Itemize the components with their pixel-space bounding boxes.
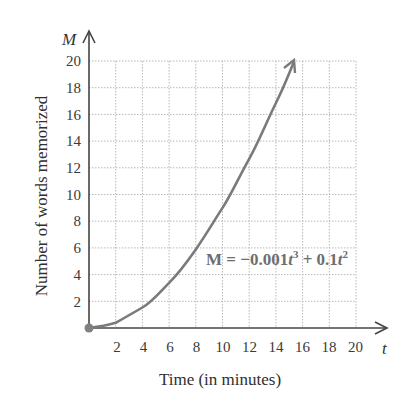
chart: 2 4 6 8 10 12 14 16 18 20 2 4 6 8 10 12 … xyxy=(0,0,416,401)
y-axis-variable: M xyxy=(61,30,77,49)
y-tick-label: 16 xyxy=(66,107,82,123)
y-tick-label: 20 xyxy=(66,53,81,69)
x-tick-label: 16 xyxy=(295,339,311,355)
x-axis-title: Time (in minutes) xyxy=(159,370,281,389)
y-tick-label: 18 xyxy=(66,80,81,96)
x-axis-variable: t xyxy=(382,339,388,358)
y-tick-labels: 2 4 6 8 10 12 14 16 18 20 xyxy=(66,53,82,309)
x-tick-label: 20 xyxy=(348,339,363,355)
x-tick-labels: 2 4 6 8 10 12 14 16 18 20 xyxy=(113,339,363,355)
x-tick-label: 10 xyxy=(216,339,231,355)
equation-annotation: M = −0.001t3 + 0.1t2 xyxy=(206,248,349,269)
y-tick-label: 6 xyxy=(74,240,82,256)
curve-line xyxy=(89,63,293,328)
x-tick-label: 8 xyxy=(193,339,201,355)
y-tick-label: 10 xyxy=(66,187,81,203)
x-tick-label: 12 xyxy=(242,339,257,355)
y-tick-label: 2 xyxy=(74,294,82,310)
y-tick-label: 8 xyxy=(74,213,82,229)
x-tick-label: 6 xyxy=(166,339,174,355)
x-tick-label: 4 xyxy=(140,339,148,355)
grid xyxy=(89,61,356,328)
y-tick-label: 14 xyxy=(66,133,82,149)
x-tick-label: 14 xyxy=(269,339,285,355)
y-axis-title: Number of words memorized xyxy=(32,95,51,296)
axes xyxy=(83,31,387,334)
x-tick-label: 2 xyxy=(113,339,121,355)
y-tick-label: 4 xyxy=(74,267,82,283)
x-tick-label: 18 xyxy=(322,339,337,355)
y-tick-label: 12 xyxy=(66,160,81,176)
origin-point xyxy=(85,324,94,333)
